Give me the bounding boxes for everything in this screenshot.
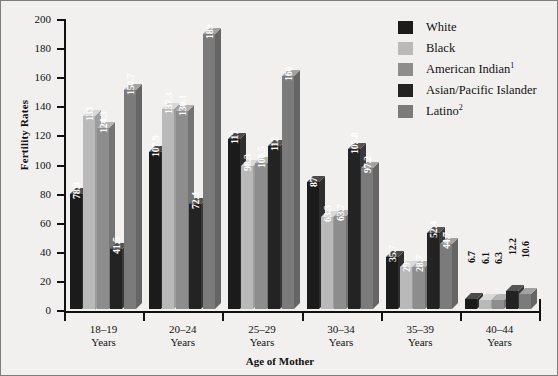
bar-value-label: 100.5: [255, 146, 266, 168]
bar-value-label: 136.1: [176, 94, 187, 116]
bar: 28.7: [413, 261, 425, 309]
legend-label: American Indian1: [426, 61, 514, 77]
y-axis-tick: [57, 252, 66, 254]
y-axis-tick-label: 140: [15, 101, 51, 112]
bar-front-face: [519, 294, 531, 309]
x-axis-tick: [302, 312, 304, 321]
bar-front-face: [506, 291, 518, 309]
y-axis-tick-label: 80: [15, 189, 51, 200]
bar-value-label: 63.3: [321, 205, 332, 222]
chart-figure: Fertility Rates 200180160140120100806040…: [0, 0, 558, 376]
bar-value-label: 98.3: [242, 154, 253, 171]
legend-label: White: [426, 20, 457, 35]
bar-value-label: 6.1: [479, 252, 490, 264]
bar: 35.7: [386, 251, 398, 309]
bar-side-face: [452, 238, 458, 309]
bar: 10.6: [519, 288, 531, 309]
bar-front-face: [124, 90, 136, 309]
bar-side-face: [136, 84, 142, 309]
bar-value-label: 112: [269, 137, 280, 151]
bar-front-face: [334, 216, 346, 309]
bar-front-face: [427, 233, 439, 309]
bar: 133: [83, 110, 95, 310]
legend-item: Black: [398, 38, 537, 58]
bar-front-face: [400, 267, 412, 309]
x-axis-label: 35–39Years: [381, 323, 459, 349]
y-axis-tick: [57, 19, 66, 21]
bar: 29: [400, 261, 412, 309]
bar-value-label: 150.7: [124, 73, 135, 95]
bar: 100.5: [255, 157, 267, 309]
legend: WhiteBlackAmerican Indian1Asian/Pacific …: [398, 17, 537, 122]
bar: 97.2: [361, 162, 373, 309]
x-axis-label: 30–34Years: [302, 323, 380, 349]
bar-front-face: [241, 166, 253, 309]
bar: 98.3: [241, 160, 253, 309]
legend-label: Asian/Pacific Islander: [426, 83, 537, 98]
bar-front-face: [386, 257, 398, 309]
bar-value-label: 6.3: [493, 252, 504, 264]
bar-value-label: 72.4: [190, 192, 201, 209]
x-axis-tick: [381, 312, 383, 321]
y-axis-tick-label: 160: [15, 72, 51, 83]
x-axis-right-cap: [539, 299, 541, 313]
y-axis-tick: [57, 281, 66, 283]
bar-front-face: [110, 249, 122, 309]
y-axis-tick: [57, 106, 66, 108]
bar-value-label: 29: [400, 262, 411, 272]
bar-front-face: [492, 300, 504, 309]
y-axis-tick-label: 200: [15, 14, 51, 25]
y-axis-tick: [57, 165, 66, 167]
bar-value-label: 41.5: [111, 237, 122, 254]
bar-front-face: [83, 116, 95, 310]
bar-front-face: [321, 217, 333, 309]
bar: 6.7: [465, 293, 477, 309]
bar-front-face: [479, 300, 491, 309]
y-axis-tick-label: 20: [15, 276, 51, 287]
bar-value-label: 107.9: [149, 136, 160, 158]
x-axis-label-unit: Years: [65, 336, 143, 349]
legend-item: American Indian1: [398, 59, 537, 79]
y-axis-tick: [57, 194, 66, 196]
bar: 6.1: [479, 294, 491, 309]
legend-item: White: [398, 17, 537, 37]
bar-value-label: 109.8: [348, 133, 359, 155]
y-axis-tick: [57, 77, 66, 79]
x-axis-label-range: 18–19: [65, 323, 143, 336]
legend-label: Latino2: [426, 103, 463, 119]
x-axis-tick: [222, 312, 224, 321]
x-axis-label-range: 30–34: [302, 323, 380, 336]
x-axis-title: Age of Mother: [1, 355, 558, 367]
bar: 87: [307, 176, 319, 309]
bar: 150.7: [124, 84, 136, 309]
bar: 137.3: [162, 103, 174, 309]
bar: 78.8: [70, 188, 82, 309]
bar-value-label: 97.2: [362, 156, 373, 173]
bar: 160: [282, 70, 294, 309]
legend-label-superscript: 2: [459, 103, 463, 112]
bar: 136.1: [176, 105, 188, 309]
bar: 107.9: [149, 146, 161, 309]
bar-value-label: 124.3: [97, 112, 108, 134]
bar-front-face: [268, 146, 280, 309]
bar-value-label: 10.6: [520, 241, 531, 258]
bar: 189: [203, 28, 215, 309]
bar-front-face: [149, 152, 161, 309]
bar: 109.8: [348, 143, 360, 309]
bar: 6.3: [492, 294, 504, 309]
bar-value-label: 35.7: [387, 245, 398, 262]
bar-value-label: 117: [228, 130, 239, 144]
x-axis-label-unit: Years: [223, 336, 301, 349]
bar: 63.3: [321, 211, 333, 309]
bar-front-face: [307, 182, 319, 309]
y-axis-tick-label: 100: [15, 160, 51, 171]
bar: 117: [228, 133, 240, 309]
bar-value-label: 189: [203, 25, 214, 39]
bar-value-label: 63.7: [335, 205, 346, 222]
bar-front-face: [361, 168, 373, 309]
legend-label: Black: [426, 41, 455, 56]
legend-swatch: [398, 105, 413, 118]
bar-value-label: 137.3: [163, 93, 174, 115]
bar-front-face: [465, 299, 477, 309]
legend-swatch: [398, 42, 413, 55]
